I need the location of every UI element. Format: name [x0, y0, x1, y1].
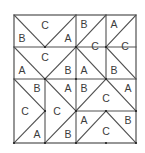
vertex-dot — [75, 78, 77, 80]
region-label-a: A — [33, 128, 40, 140]
region-label-a: A — [124, 82, 131, 94]
vertex-dot — [105, 46, 107, 48]
region-label-b: B — [80, 82, 87, 94]
region-label-a: A — [18, 64, 25, 76]
region-label-b: B — [124, 114, 131, 126]
region-label-c: C — [102, 125, 110, 137]
region-label-c: C — [53, 105, 61, 117]
quilt-tile-diagram: BCAACBBCAACBBCAACBBCAACB — [0, 0, 145, 153]
vertex-dot — [44, 110, 46, 112]
region-label-a: A — [110, 18, 117, 30]
vertex-dot — [44, 78, 46, 80]
vertex-dot — [105, 142, 107, 144]
region-label-a: A — [64, 32, 71, 44]
region-label-b: B — [110, 64, 117, 76]
region-label-a: A — [80, 64, 87, 76]
vertex-dot — [75, 46, 77, 48]
vertex-dot — [13, 142, 15, 144]
vertex-dot — [105, 78, 107, 80]
region-label-c: C — [41, 19, 49, 31]
region-label-b: B — [64, 64, 71, 76]
region-label-b: B — [33, 82, 40, 94]
region-label-c: C — [121, 40, 129, 52]
region-label-a: A — [64, 82, 71, 94]
vertex-dot — [105, 110, 107, 112]
region-label-a: A — [80, 114, 87, 126]
vertex-dot — [135, 142, 137, 144]
vertex-dot — [44, 142, 46, 144]
region-label-c: C — [91, 40, 99, 52]
region-label-c: C — [21, 105, 29, 117]
region-label-c: C — [102, 92, 110, 104]
vertex-dot — [75, 110, 77, 112]
region-label-b: B — [18, 32, 25, 44]
vertex-dot — [75, 142, 77, 144]
vertex-dot — [135, 110, 137, 112]
region-label-b: B — [80, 18, 87, 30]
region-label-c: C — [41, 51, 49, 63]
region-label-b: B — [64, 128, 71, 140]
vertex-dot — [44, 46, 46, 48]
